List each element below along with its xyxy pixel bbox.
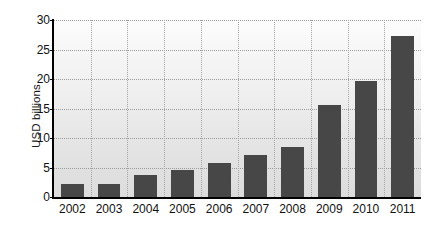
bar	[61, 184, 84, 197]
x-tick-label: 2006	[206, 202, 233, 216]
y-tick-label: 25	[26, 43, 50, 57]
y-axis-line	[52, 19, 54, 198]
gridline-vertical	[164, 20, 165, 197]
gridline-vertical	[201, 20, 202, 197]
y-tick-label: 5	[26, 161, 50, 175]
x-tick-label: 2004	[132, 202, 159, 216]
gridline-vertical	[348, 20, 349, 197]
y-tick-label: 10	[26, 131, 50, 145]
bar	[355, 81, 378, 197]
bar	[391, 36, 414, 197]
bar	[281, 147, 304, 197]
gridline-vertical	[127, 20, 128, 197]
gridline-vertical	[384, 20, 385, 197]
gridline-vertical	[238, 20, 239, 197]
y-tick-label: 20	[26, 72, 50, 86]
x-tick-label: 2010	[353, 202, 380, 216]
plot-area	[54, 20, 421, 197]
gridline-vertical	[311, 20, 312, 197]
bar	[98, 184, 121, 197]
bar	[318, 105, 341, 197]
x-tick-label: 2005	[169, 202, 196, 216]
bar	[134, 175, 157, 197]
x-tick-label: 2009	[316, 202, 343, 216]
x-tick-label: 2011	[390, 202, 416, 216]
x-axis-tick-labels: 2002200320042005200620072008200920102011	[54, 202, 421, 222]
bar	[171, 170, 194, 197]
y-tick-label: 0	[26, 190, 50, 204]
bar	[208, 163, 231, 197]
x-axis-line	[52, 197, 421, 199]
y-tick-label: 15	[26, 102, 50, 116]
x-tick-label: 2008	[279, 202, 306, 216]
y-axis-tick-labels: 051015202530	[26, 20, 50, 197]
bar-chart: USD billions 051015202530 20022003200420…	[0, 0, 430, 232]
bar	[244, 155, 267, 197]
gridline-vertical	[274, 20, 275, 197]
x-tick-label: 2002	[59, 202, 86, 216]
y-tick-label: 30	[26, 13, 50, 27]
gridline-vertical	[91, 20, 92, 197]
x-tick-label: 2007	[242, 202, 269, 216]
x-tick-label: 2003	[96, 202, 123, 216]
